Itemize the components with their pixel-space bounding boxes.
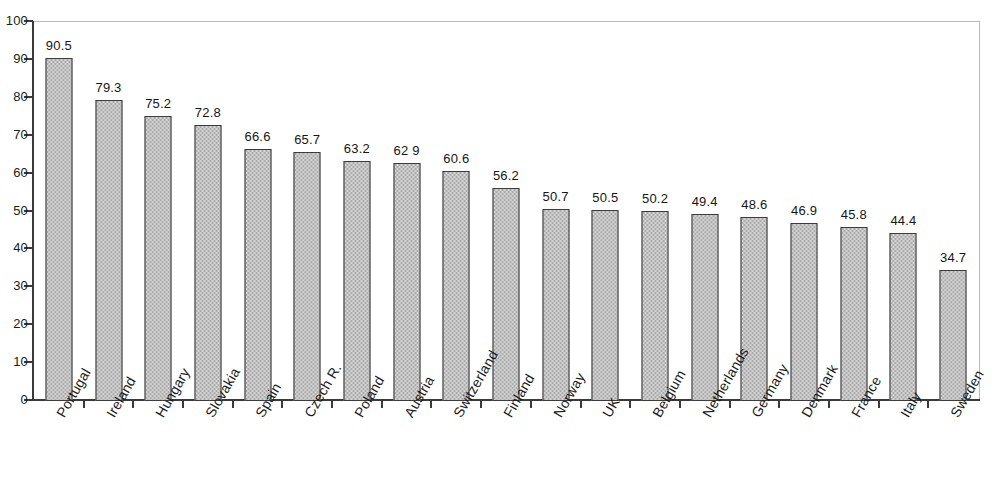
bar-slot: 66.6 (233, 21, 283, 401)
y-axis-label: 20 (4, 317, 28, 330)
x-axis-tick (381, 400, 383, 408)
bar-value-label: 75.2 (145, 97, 171, 110)
bar-value-label: 46.9 (791, 204, 817, 217)
bar-slot: 34.7 (928, 21, 978, 401)
y-axis-label: 70 (4, 128, 28, 141)
bar-slot: 46.9 (779, 21, 829, 401)
bar-value-label: 50.7 (543, 190, 569, 203)
y-axis-label: 0 (4, 393, 28, 406)
bar-slot: 50.7 (531, 21, 581, 401)
bar (791, 223, 818, 401)
x-axis-tick (430, 400, 432, 408)
x-axis-tick (679, 400, 681, 408)
bar-slot: 63.2 (332, 21, 382, 401)
bar-value-label: 63.2 (344, 142, 370, 155)
bar (691, 214, 718, 401)
y-axis-label: 80 (4, 90, 28, 103)
bar-value-label: 45.8 (841, 208, 867, 221)
bar-slot: 62 9 (382, 21, 432, 401)
bar-value-label: 48.6 (741, 198, 767, 211)
y-axis-label: 90 (4, 52, 28, 65)
bar (45, 58, 72, 401)
bar-slot: 72.8 (183, 21, 233, 401)
x-axis-tick (182, 400, 184, 408)
bar (492, 188, 519, 401)
x-axis-tick (580, 400, 582, 408)
x-axis-tick (729, 400, 731, 408)
bar-slot: 75.2 (133, 21, 183, 401)
bar (95, 100, 122, 401)
bar (443, 171, 470, 401)
bar-value-label: 50.2 (642, 192, 668, 205)
bar (145, 116, 172, 401)
x-axis-tick (878, 400, 880, 408)
bar-slot: 90.5 (34, 21, 84, 401)
bar-value-label: 62 9 (394, 144, 420, 157)
bar-slot: 50.5 (581, 21, 631, 401)
bar (194, 125, 221, 401)
bar-value-label: 49.4 (692, 195, 718, 208)
bar (890, 233, 917, 401)
bar (294, 152, 321, 401)
bar (940, 270, 967, 402)
bar-slot: 44.4 (879, 21, 929, 401)
bar-value-label: 65.7 (294, 133, 320, 146)
bar (840, 227, 867, 401)
bar-slot: 65.7 (282, 21, 332, 401)
bar-value-label: 50.5 (592, 191, 618, 204)
x-axis-tick (778, 400, 780, 408)
bar-value-label: 34.7 (940, 251, 966, 264)
bar (592, 210, 619, 401)
bar (542, 209, 569, 401)
bar-value-label: 90.5 (46, 39, 72, 52)
y-axis-label: 60 (4, 166, 28, 179)
bar-slot: 79.3 (84, 21, 134, 401)
bar-value-label: 79.3 (95, 81, 121, 94)
bar (244, 149, 271, 401)
y-axis-label: 100 (4, 14, 28, 27)
bar (393, 163, 420, 401)
x-axis-tick (927, 400, 929, 408)
x-axis-tick (232, 400, 234, 408)
bar (343, 161, 370, 401)
bar-slot: 60.6 (431, 21, 481, 401)
bar (741, 217, 768, 401)
x-axis-tick (629, 400, 631, 408)
y-axis-label: 50 (4, 204, 28, 217)
y-axis-label: 40 (4, 241, 28, 254)
bar (642, 211, 669, 401)
bar-value-label: 56.2 (493, 169, 519, 182)
bar-value-label: 66.6 (245, 130, 271, 143)
bar-slot: 45.8 (829, 21, 879, 401)
y-axis-label: 10 (4, 355, 28, 368)
x-axis-tick (281, 400, 283, 408)
x-axis-tick (132, 400, 134, 408)
bar-slot: 49.4 (680, 21, 730, 401)
bar-value-label: 72.8 (195, 106, 221, 119)
x-axis-tick (530, 400, 532, 408)
bar-slot: 50.2 (630, 21, 680, 401)
bar-value-label: 60.6 (443, 152, 469, 165)
x-axis-tick (480, 400, 482, 408)
bars-area: 90.579.375.272.866.665.763.262 960.656.2… (34, 21, 978, 401)
bar-slot: 56.2 (481, 21, 531, 401)
x-axis-tick (828, 400, 830, 408)
x-axis-tick (331, 400, 333, 408)
x-axis-tick (83, 400, 85, 408)
bar-chart: 0102030405060708090100 90.579.375.272.86… (0, 0, 994, 501)
bar-value-label: 44.4 (890, 214, 916, 227)
y-axis-label: 30 (4, 279, 28, 292)
